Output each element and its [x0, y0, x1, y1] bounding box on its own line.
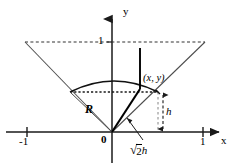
y-axis-label: y — [123, 6, 129, 17]
slant-length-label: √2h — [130, 143, 147, 156]
origin-label: 0 — [101, 134, 107, 145]
y-tick-label-1: 1 — [98, 35, 104, 46]
x-tick-label-neg1: -1 — [19, 136, 28, 147]
radius-label: R — [85, 103, 93, 115]
height-label: h — [166, 106, 172, 117]
slant-suffix: h — [142, 144, 148, 156]
x-tick-label-1: 1 — [200, 136, 206, 147]
radius-line-to-point — [112, 89, 140, 132]
slant-leader-arrowhead — [127, 118, 132, 123]
cone-right-edge — [112, 42, 205, 132]
x-axis-label: x — [221, 135, 227, 146]
point-coordinate-label: (x, y) — [143, 73, 165, 84]
cone-left-edge — [25, 42, 112, 132]
cone-cap-figure: y x 1 -1 1 0 (x, y) R h √2h — [0, 0, 232, 168]
figure-canvas — [0, 0, 232, 168]
radicand: 2 — [136, 144, 142, 157]
